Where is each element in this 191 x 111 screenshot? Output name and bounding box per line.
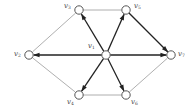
edge-v2-v4 bbox=[32, 58, 75, 92]
node-v1 bbox=[102, 51, 110, 59]
node-label-v7: v7 bbox=[178, 51, 185, 59]
nodes-layer bbox=[25, 6, 175, 99]
edge-v6-v7 bbox=[129, 58, 167, 92]
node-label-subscript: 2 bbox=[18, 53, 21, 58]
node-v5 bbox=[122, 6, 130, 14]
node-label-v3: v3 bbox=[64, 3, 71, 11]
graph-diagram bbox=[0, 0, 191, 111]
edge-v1-v6 bbox=[108, 59, 124, 91]
node-label-v1: v1 bbox=[88, 43, 95, 51]
node-label-v6: v6 bbox=[131, 99, 138, 107]
node-label-subscript: 3 bbox=[68, 5, 71, 10]
node-v4 bbox=[75, 91, 83, 99]
node-label-v5: v5 bbox=[134, 3, 141, 11]
node-label-v4: v4 bbox=[67, 99, 74, 107]
node-v3 bbox=[75, 6, 83, 14]
edge-v1-v4 bbox=[82, 58, 104, 91]
node-label-subscript: 1 bbox=[92, 45, 95, 50]
edge-v5-v7 bbox=[129, 13, 168, 52]
node-label-subscript: 6 bbox=[135, 101, 138, 106]
node-v6 bbox=[122, 91, 130, 99]
edges-layer bbox=[32, 10, 167, 95]
node-v2 bbox=[25, 51, 33, 59]
node-label-v2: v2 bbox=[14, 51, 21, 59]
node-v7 bbox=[167, 51, 175, 59]
node-label-subscript: 4 bbox=[71, 101, 74, 106]
edge-v3-v2 bbox=[32, 13, 75, 52]
node-label-subscript: 5 bbox=[138, 5, 141, 10]
node-label-subscript: 7 bbox=[182, 53, 185, 58]
edge-v1-v5 bbox=[108, 14, 124, 51]
